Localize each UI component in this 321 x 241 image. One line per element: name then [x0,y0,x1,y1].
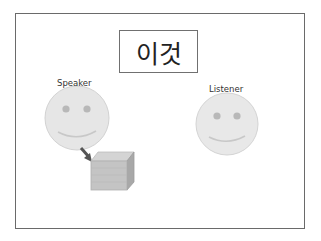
pointing-arrow-icon [81,148,92,162]
speaker-face-icon [45,86,109,150]
speaker-label: Speaker [57,78,92,88]
listener-label: Listener [209,84,243,94]
listener-face-icon [196,93,258,155]
box-icon [91,152,134,190]
diagram-scene [0,0,321,241]
